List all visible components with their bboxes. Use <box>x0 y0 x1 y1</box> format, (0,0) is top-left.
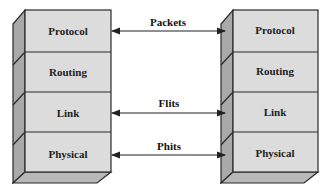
left-layer-link: Link <box>57 107 81 119</box>
left-layer-physical: Physical <box>48 148 87 160</box>
left-layer-protocol: Protocol <box>48 25 88 37</box>
packets-label: Packets <box>150 16 187 28</box>
right-layer-routing: Routing <box>256 65 294 77</box>
right-layer-protocol: Protocol <box>255 24 295 36</box>
phits-label: Phits <box>157 140 182 152</box>
packets-connection: Packets <box>112 16 225 31</box>
left-node-stack: Protocol Routing Link Physical <box>13 10 111 183</box>
flits-label: Flits <box>159 97 180 109</box>
protocol-stack-diagram: Protocol Routing Link Physical Protocol … <box>0 0 329 195</box>
right-layer-link: Link <box>264 106 288 118</box>
flits-connection: Flits <box>112 97 225 113</box>
right-layer-physical: Physical <box>255 147 294 159</box>
left-layer-routing: Routing <box>49 66 87 78</box>
right-node-stack: Protocol Routing Link Physical <box>221 10 318 183</box>
phits-connection: Phits <box>112 140 225 155</box>
